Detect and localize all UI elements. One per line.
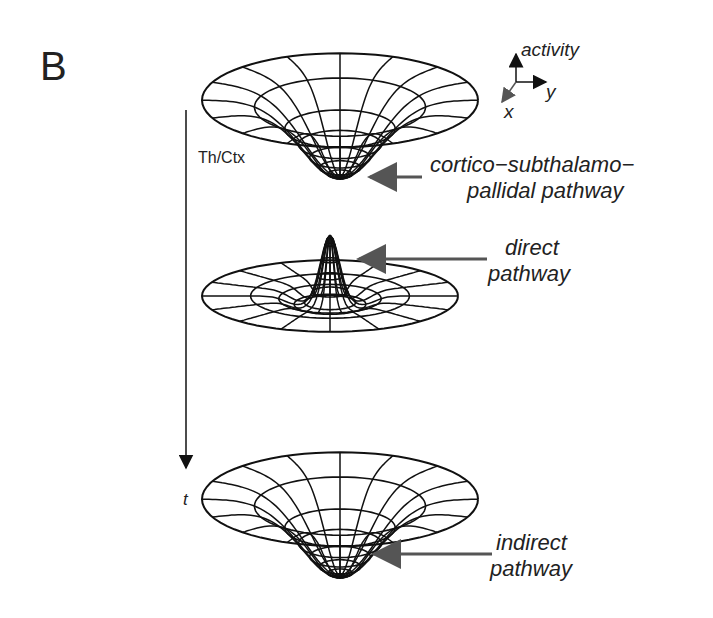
x-axis — [502, 82, 516, 102]
surface-peak-middle — [202, 235, 458, 332]
annotation-top-line1: cortico−subthalamo− — [430, 152, 634, 177]
activity-label: activity — [521, 39, 581, 60]
diagram-canvas: B activity y x Th/Ctx t cortico−subthala… — [0, 0, 713, 618]
surface-funnel-bottom — [202, 452, 478, 578]
t-label: t — [183, 490, 189, 509]
annotation-middle-line2: pathway — [487, 261, 572, 286]
panel-label: B — [40, 44, 67, 88]
y-label: y — [544, 81, 557, 102]
surface-spoke — [330, 235, 448, 310]
annotation-bottom-line2: pathway — [489, 556, 574, 581]
annotation-bottom-line1: indirect — [496, 530, 568, 555]
surface-spoke — [212, 235, 330, 301]
x-label: x — [503, 101, 515, 122]
annotation-top-line2: pallidal pathway — [466, 178, 626, 203]
axes-glyph: activity y x — [502, 39, 581, 122]
surface-spoke — [212, 235, 330, 310]
surface-spoke — [330, 235, 448, 301]
annotation-middle-line1: direct — [505, 235, 560, 260]
th-ctx-label: Th/Ctx — [198, 149, 245, 166]
